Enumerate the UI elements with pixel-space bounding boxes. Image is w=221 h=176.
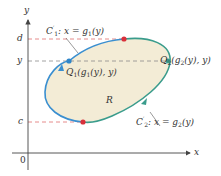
y-axis-label: y (24, 6, 29, 15)
c1-eq: : x = g (58, 26, 88, 36)
c2-eq-tail: (y) (182, 117, 194, 127)
double-integral-region-diagram: y x 0 d y c R C′1: x = g1(y) C′2: x = g2… (0, 0, 221, 176)
origin-label: 0 (20, 156, 26, 165)
level-d-label: d (17, 34, 23, 43)
q2-body: (g (171, 55, 180, 65)
point-q2-label: Q2(g2(y), y) (160, 56, 211, 66)
level-y-label: y (17, 56, 22, 65)
x-axis-label: x (194, 148, 199, 157)
region-r-label: R (106, 96, 113, 105)
point-q1 (66, 58, 71, 63)
curve-c1-label: C′1: x = g1(y) (46, 25, 104, 37)
region-r (45, 38, 170, 122)
c2-eq: : x = g (148, 117, 178, 127)
diagram-canvas (0, 0, 221, 176)
c1-leader-line (66, 38, 78, 53)
q2-tail: (y), y) (184, 55, 210, 65)
c1-eq-tail: (y) (92, 26, 104, 36)
point-top-d (121, 36, 126, 41)
curve-c2-label: C′2: x = g2(y) (136, 116, 194, 128)
c1-name: C (46, 26, 53, 36)
point-q1-label: Q1(g1(y), y) (66, 68, 117, 78)
level-c-label: c (18, 117, 23, 126)
point-bottom-c (80, 119, 85, 124)
q1-body: (g (77, 67, 86, 77)
q1-tail: (y), y) (90, 67, 116, 77)
c2-name: C (136, 117, 143, 127)
